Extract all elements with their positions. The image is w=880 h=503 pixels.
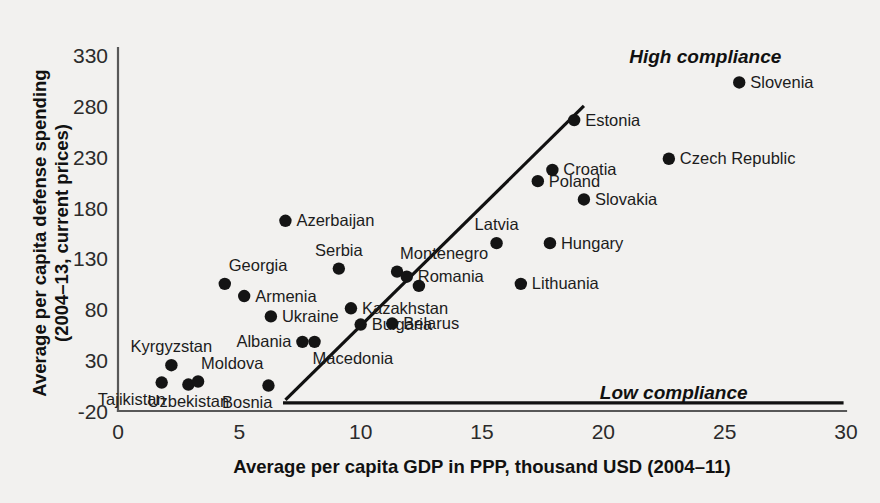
point-label: Kyrgyzstan <box>131 337 213 355</box>
data-point <box>155 376 167 388</box>
zone-annotations: High complianceLow compliance <box>600 46 782 403</box>
y-tick-label: 330 <box>73 44 108 67</box>
x-tick-label: 0 <box>112 420 124 443</box>
plot-canvas: -203080130180230280330 051015202530 Taji… <box>0 0 880 503</box>
data-point <box>219 278 231 290</box>
data-point <box>262 379 274 391</box>
y-axis-title-line: Average per capita defense spending <box>29 69 50 396</box>
data-point <box>578 193 590 205</box>
data-point <box>296 336 308 348</box>
point-label: Ukraine <box>282 307 339 325</box>
high-compliance-label: High compliance <box>629 46 781 67</box>
x-axis-title: Average per capita GDP in PPP, thousand … <box>233 456 730 477</box>
data-point <box>333 262 345 274</box>
point-label: Serbia <box>315 241 364 259</box>
point-label: Latvia <box>475 215 520 233</box>
x-tick-label: 15 <box>470 420 493 443</box>
low-compliance-label: Low compliance <box>600 382 748 403</box>
data-point <box>265 310 277 322</box>
data-point <box>544 237 556 249</box>
point-label: Czech Republic <box>680 149 796 167</box>
point-label: Armenia <box>255 287 317 305</box>
scatter-chart: -203080130180230280330 051015202530 Taji… <box>0 0 880 503</box>
x-tick-label: 10 <box>349 420 372 443</box>
point-label: Croatia <box>563 160 617 178</box>
point-label: Uzbekistan <box>148 392 230 410</box>
x-tick-label: 20 <box>592 420 615 443</box>
data-points: TajikistanKyrgyzstanUzbekistanMoldovaGeo… <box>98 73 815 411</box>
x-tick-label: 5 <box>233 420 245 443</box>
point-label: Lithuania <box>532 274 600 292</box>
point-label: Slovakia <box>595 190 658 208</box>
data-point <box>413 280 425 292</box>
data-point <box>238 290 250 302</box>
point-label: Moldova <box>201 354 264 372</box>
point-label: Bosnia <box>222 393 273 411</box>
data-point <box>192 375 204 387</box>
data-point <box>308 336 320 348</box>
point-label: Slovenia <box>750 73 814 91</box>
x-tick-label: 30 <box>834 420 857 443</box>
y-tick-label: 30 <box>85 349 108 372</box>
point-label: Montenegro <box>400 244 488 262</box>
data-point <box>490 237 502 249</box>
data-point <box>345 302 357 314</box>
axis-titles: Average per capita GDP in PPP, thousand … <box>29 69 731 477</box>
point-label: Hungary <box>561 234 624 252</box>
y-tick-label: 280 <box>73 95 108 118</box>
data-point <box>515 278 527 290</box>
data-point <box>165 359 177 371</box>
y-axis-title-line: (2004–13, current prices) <box>51 124 72 342</box>
data-point <box>279 215 291 227</box>
point-label: Georgia <box>229 256 289 274</box>
point-label: Estonia <box>585 111 641 129</box>
data-point <box>733 76 745 88</box>
x-tick-label: 25 <box>713 420 736 443</box>
y-tick-label: 130 <box>73 247 108 270</box>
data-point <box>663 153 675 165</box>
point-label: Azerbaijan <box>296 211 374 229</box>
y-tick-label: 230 <box>73 146 108 169</box>
data-point <box>546 164 558 176</box>
data-point <box>401 271 413 283</box>
data-point <box>532 175 544 187</box>
point-label: Romania <box>418 267 485 285</box>
data-point <box>568 114 580 126</box>
y-tick-label: 180 <box>73 197 108 220</box>
point-label: Albania <box>236 332 292 350</box>
y-tick-labels: -203080130180230280330 <box>73 44 108 423</box>
data-point <box>354 318 366 330</box>
data-point <box>386 317 398 329</box>
y-tick-label: 80 <box>85 298 108 321</box>
point-label: Belarus <box>403 314 459 332</box>
x-tick-labels: 051015202530 <box>112 420 858 443</box>
point-label: Macedonia <box>313 349 395 367</box>
